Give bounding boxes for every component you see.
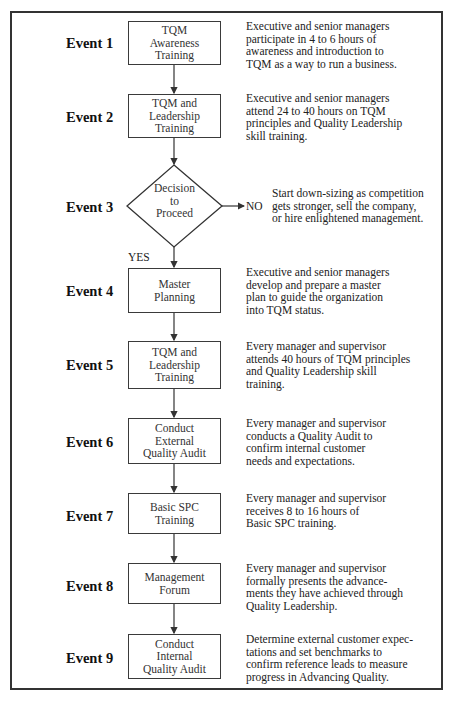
box-line: Awareness	[150, 37, 199, 50]
event-6-label: Event 6	[66, 434, 116, 450]
event-6-description: Every manager and supervisorconducts a Q…	[246, 417, 446, 467]
event-8-box: ManagementForum	[128, 563, 221, 604]
event-6-box: ConductExternalQuality Audit	[128, 418, 221, 464]
event-1-label: Event 1	[66, 35, 116, 51]
event-3-description: Start down-sizing as competitiongets str…	[272, 187, 424, 225]
box-line: Leadership	[149, 110, 200, 123]
event-2-box: TQM andLeadershipTraining	[128, 94, 221, 138]
event-9-label: Event 9	[66, 650, 116, 666]
event-4-description: Executive and senior managersdevelop and…	[246, 266, 446, 316]
event-5-label: Event 5	[66, 357, 116, 373]
event-7-box: Basic SPCTraining	[128, 493, 221, 534]
box-line: TQM and	[149, 97, 200, 110]
event-4-box: MasterPlanning	[128, 268, 221, 313]
event-7-label: Event 7	[66, 508, 116, 524]
box-line: Training	[150, 49, 199, 62]
event-8-description: Every manager and supervisorformally pre…	[246, 562, 446, 612]
event-2-description: Executive and senior managersattend 24 t…	[246, 92, 446, 142]
event-4-label: Event 4	[66, 283, 116, 299]
event-7-description: Every manager and supervisorreceives 8 t…	[246, 492, 446, 530]
event-3-label: Event 3	[66, 199, 116, 215]
event-9-description: Determine external customer expec-tation…	[246, 633, 446, 683]
event-5-description: Every manager and supervisorattends 40 h…	[246, 340, 446, 390]
no-branch-label: NO	[246, 200, 263, 212]
event-5-box: TQM andLeadershipTraining	[128, 341, 221, 389]
event-8-label: Event 8	[66, 578, 116, 594]
event-9-box: ConductInternalQuality Audit	[128, 634, 221, 679]
yes-branch-label: YES	[128, 251, 150, 263]
box-line: Training	[149, 122, 200, 135]
decision-diamond-text: DecisiontoProceed	[128, 182, 221, 220]
box-line: TQM	[150, 24, 199, 37]
event-2-label: Event 2	[66, 109, 116, 125]
event-1-box: TQMAwarenessTraining	[128, 21, 221, 65]
event-1-description: Executive and senior managersparticipate…	[246, 20, 446, 70]
